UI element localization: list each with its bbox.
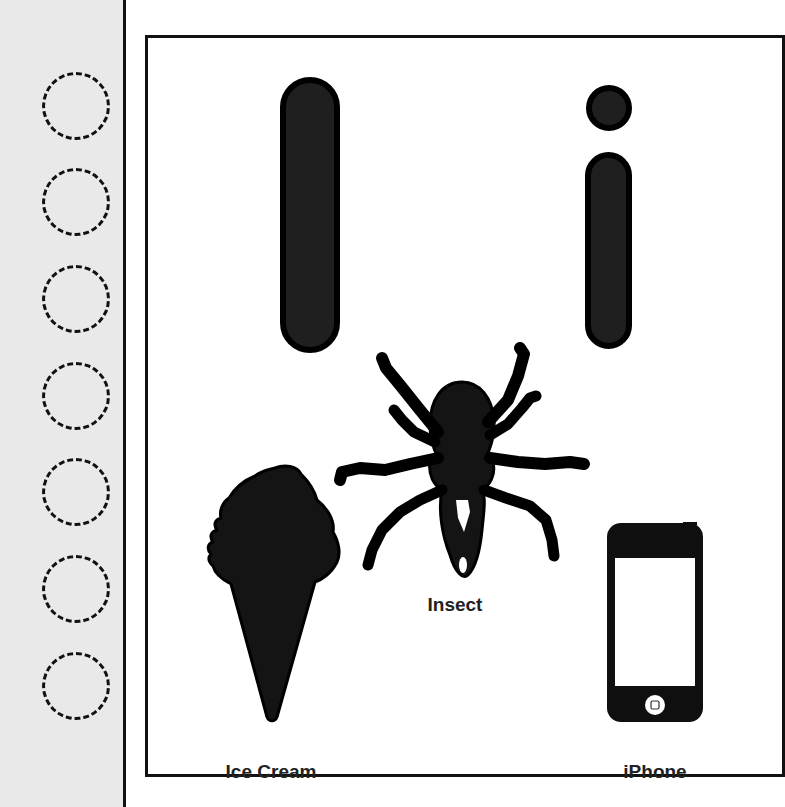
tracing-strip (0, 0, 123, 807)
letter-lowercase-i-dot (586, 85, 632, 131)
tracing-circle (42, 555, 110, 623)
letter-lowercase-i-stem (585, 152, 632, 349)
ice-cream-label: Ice Cream (226, 761, 317, 783)
insect-icon (330, 340, 595, 590)
iphone-icon (605, 521, 705, 724)
tracing-circle (42, 168, 110, 236)
tracing-circle (42, 72, 110, 140)
tracing-circle (42, 458, 110, 526)
tracing-circle (42, 652, 110, 720)
strip-divider (123, 0, 126, 807)
tracing-circle (42, 362, 110, 430)
letter-uppercase-i (280, 77, 340, 353)
iphone-label: iPhone (623, 761, 686, 783)
ice-cream-icon (205, 462, 345, 724)
insect-label: Insect (428, 594, 483, 616)
tracing-circle (42, 265, 110, 333)
